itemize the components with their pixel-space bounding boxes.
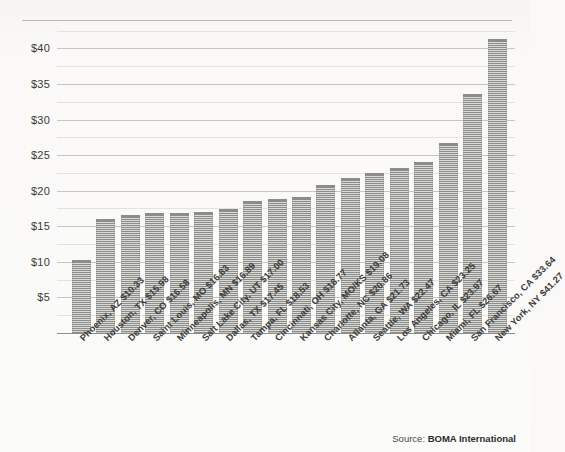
- y-tick-label: $30: [31, 114, 50, 126]
- y-tick-label: $35: [31, 78, 50, 90]
- top-rule: [22, 20, 512, 21]
- source-label: Source:: [392, 433, 425, 444]
- source-attribution: Source: BOMA International: [392, 433, 516, 444]
- y-tick-label: $40: [31, 42, 50, 54]
- y-tick-label: $20: [31, 185, 50, 197]
- bar: [72, 260, 91, 334]
- y-tick-label: $5: [37, 291, 50, 303]
- y-tick-label: $25: [31, 149, 50, 161]
- y-tick-label: $15: [31, 220, 50, 232]
- y-tick-label: $10: [31, 256, 50, 268]
- source-name: BOMA International: [428, 433, 516, 444]
